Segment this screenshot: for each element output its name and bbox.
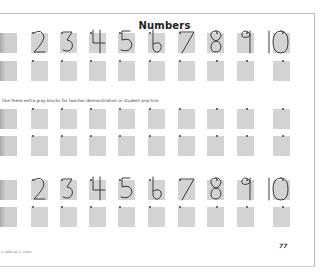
start-dot-icon (282, 135, 284, 137)
start-dot-icon (90, 135, 92, 137)
start-dot-icon (216, 135, 218, 137)
start-dot-icon (90, 206, 92, 208)
start-dot-icon (246, 108, 248, 110)
start-dot-icon (90, 108, 92, 110)
gray-block (207, 61, 224, 81)
digit-5-model-icon (117, 176, 137, 202)
digit-3-model-icon (59, 29, 79, 55)
gray-block (178, 136, 195, 156)
gray-block (0, 61, 17, 81)
gray-block (118, 136, 135, 156)
gray-block (118, 109, 135, 129)
start-dot-icon (32, 108, 34, 110)
digit-6-model-icon (147, 29, 167, 55)
start-dot-icon (216, 108, 218, 110)
start-dot-icon (90, 60, 92, 62)
gray-block (89, 207, 106, 227)
copyright-text: © 2003 Jan Z. Olsen (1, 250, 32, 254)
digit-2-model-icon (30, 176, 50, 202)
gray-block (89, 61, 106, 81)
start-dot-icon (61, 60, 63, 62)
gray-block (89, 109, 106, 129)
gray-block (0, 33, 17, 53)
start-dot-icon (246, 135, 248, 137)
gray-block (31, 136, 48, 156)
start-dot-icon (149, 206, 151, 208)
gray-block (148, 136, 165, 156)
start-dot-icon (119, 60, 121, 62)
start-dot-icon (61, 108, 63, 110)
gray-block (148, 61, 165, 81)
start-dot-icon (179, 206, 181, 208)
digit-8-model-icon (206, 29, 226, 55)
start-dot-icon (216, 206, 218, 208)
start-dot-icon (149, 108, 151, 110)
start-dot-icon (32, 206, 34, 208)
instruction-text: Use these extra gray blocks for teacher … (2, 98, 159, 103)
start-dot-icon (216, 60, 218, 62)
start-dot-icon (32, 135, 34, 137)
gray-block (148, 207, 165, 227)
start-dot-icon (61, 135, 63, 137)
start-dot-icon (179, 60, 181, 62)
digit-3-model-icon (59, 176, 79, 202)
gray-block (118, 61, 135, 81)
digit-5-model-icon (117, 29, 137, 55)
gray-block (178, 207, 195, 227)
digit-10-model-icon (267, 176, 291, 202)
gray-block (237, 136, 254, 156)
gray-block (237, 61, 254, 81)
digit-7-model-icon (177, 176, 197, 202)
digit-4-model-icon (88, 29, 108, 55)
digit-2-model-icon (30, 29, 50, 55)
digit-4-model-icon (88, 176, 108, 202)
gray-block (89, 136, 106, 156)
digit-9-model-icon (236, 176, 256, 202)
gray-block (0, 136, 17, 156)
gray-block (31, 207, 48, 227)
gray-block (148, 109, 165, 129)
gray-block (60, 136, 77, 156)
start-dot-icon (282, 60, 284, 62)
digit-10-model-icon (267, 29, 291, 55)
gray-block (237, 109, 254, 129)
digit-6-model-icon (147, 176, 167, 202)
start-dot-icon (246, 60, 248, 62)
gray-block (60, 207, 77, 227)
start-dot-icon (282, 108, 284, 110)
gray-block (207, 109, 224, 129)
digit-8-model-icon (206, 176, 226, 202)
gray-block (60, 61, 77, 81)
gray-block (31, 109, 48, 129)
gray-block (207, 136, 224, 156)
page-number: 77 (279, 242, 287, 249)
start-dot-icon (61, 206, 63, 208)
gray-block (60, 109, 77, 129)
start-dot-icon (32, 60, 34, 62)
gray-block (273, 207, 290, 227)
start-dot-icon (282, 206, 284, 208)
gray-block (237, 207, 254, 227)
gray-block (0, 109, 17, 129)
start-dot-icon (149, 60, 151, 62)
gray-block (273, 61, 290, 81)
gray-block (178, 109, 195, 129)
start-dot-icon (246, 206, 248, 208)
start-dot-icon (119, 135, 121, 137)
digit-7-model-icon (177, 29, 197, 55)
digit-9-model-icon (236, 29, 256, 55)
start-dot-icon (119, 206, 121, 208)
start-dot-icon (119, 108, 121, 110)
gray-block (0, 207, 17, 227)
gray-block (178, 61, 195, 81)
start-dot-icon (179, 135, 181, 137)
start-dot-icon (149, 135, 151, 137)
gray-block (31, 61, 48, 81)
gray-block (273, 109, 290, 129)
gray-block (118, 207, 135, 227)
start-dot-icon (179, 108, 181, 110)
gray-block (207, 207, 224, 227)
gray-block (273, 136, 290, 156)
gray-block (0, 180, 17, 200)
